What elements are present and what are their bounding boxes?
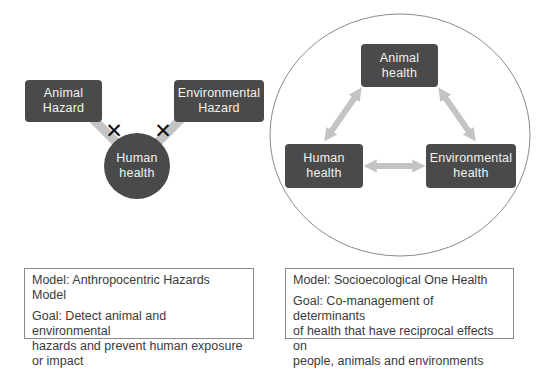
- blocked-x-icon: ✕: [153, 120, 173, 142]
- animal-health-label: Animal health: [380, 51, 419, 81]
- human-health-node: Human health: [104, 133, 170, 199]
- model-goal: Goal: Co-management of determinants of h…: [293, 294, 507, 369]
- environmental-health-node: Environmental health: [426, 144, 516, 188]
- animal-human-arrow: [328, 93, 358, 136]
- environmental-hazard-node: Environmental Hazard: [174, 80, 264, 122]
- anthropocentric-caption-box: Model: Anthropocentric Hazards Model Goa…: [24, 268, 254, 339]
- animal-health-node: Animal health: [361, 44, 438, 87]
- one-health-caption-box: Model: Socioecological One Health Goal: …: [285, 268, 514, 339]
- environmental-hazard-label: Environmental Hazard: [178, 86, 261, 116]
- one-health-human-label: Human health: [303, 151, 344, 181]
- model-goal: Goal: Detect animal and environmental ha…: [32, 309, 247, 369]
- animal-environment-arrow: [442, 93, 472, 136]
- blocked-x-icon: ✕: [104, 120, 124, 142]
- human-health-label: Human health: [116, 151, 157, 181]
- model-title: Model: Anthropocentric Hazards Model: [32, 273, 247, 303]
- animal-hazard-label: Animal Hazard: [43, 86, 85, 116]
- model-title: Model: Socioecological One Health: [293, 273, 507, 288]
- animal-hazard-node: Animal Hazard: [25, 80, 102, 122]
- environmental-health-label: Environmental health: [430, 151, 513, 181]
- one-health-human-node: Human health: [285, 144, 363, 188]
